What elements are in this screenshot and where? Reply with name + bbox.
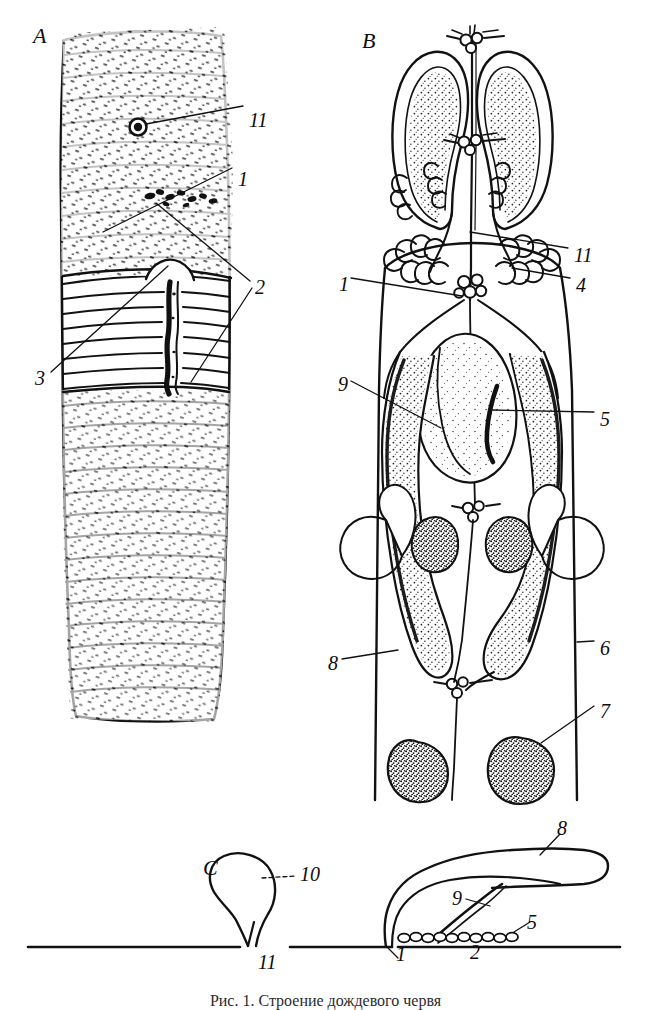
label-b-9: 9: [338, 374, 348, 394]
panel-letter-c: C: [203, 857, 218, 879]
label-b-6: 6: [600, 638, 610, 658]
label-a-3: 3: [35, 368, 45, 388]
label-c-11: 11: [258, 952, 277, 972]
label-c-8: 8: [557, 818, 567, 838]
figure-caption: Рис. 1. Строение дождевого червя: [0, 992, 651, 1010]
panel-a-artwork: [51, 26, 252, 725]
label-c-2: 2: [470, 942, 480, 962]
panel-letter-b: B: [362, 30, 375, 52]
panel-letter-a: A: [33, 25, 46, 47]
label-c-1: 1: [396, 944, 406, 964]
label-b-8: 8: [328, 653, 338, 673]
label-b-11: 11: [574, 245, 593, 265]
label-b-4: 4: [576, 275, 586, 295]
label-a-1: 1: [238, 169, 248, 189]
label-b-5: 5: [600, 409, 610, 429]
panel-c-artwork: [28, 834, 620, 958]
label-c-10: 10: [300, 864, 320, 884]
panel-b-artwork: [340, 25, 603, 804]
label-b-7: 7: [600, 701, 610, 721]
label-a-2: 2: [255, 277, 265, 297]
label-c-9: 9: [452, 888, 462, 908]
label-c-5: 5: [527, 912, 537, 932]
label-b-1: 1: [339, 274, 349, 294]
label-a-11: 11: [249, 110, 268, 130]
